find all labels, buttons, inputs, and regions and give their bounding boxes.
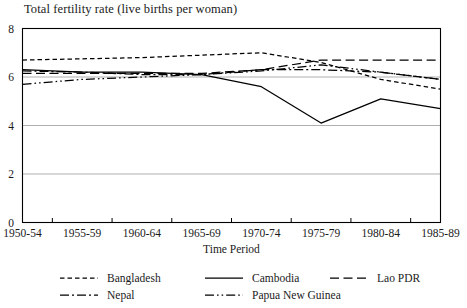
legend-label-lao-pdr: Lao PDR bbox=[377, 272, 420, 284]
legend-label-nepal: Nepal bbox=[107, 289, 134, 302]
x-tick-label-7: 1985-89 bbox=[421, 227, 460, 239]
series-line-papua-new-guinea bbox=[23, 65, 441, 84]
x-tick-label-1: 1955-59 bbox=[63, 227, 102, 239]
legend-label-cambodia: Cambodia bbox=[252, 272, 299, 284]
x-tick-label-0: 1950-54 bbox=[3, 227, 42, 239]
x-tick-label-5: 1975-79 bbox=[302, 227, 341, 239]
x-axis-title: Time Period bbox=[203, 243, 260, 255]
legend-label-papua-new-guinea: Papua New Guinea bbox=[252, 289, 341, 302]
chart-figure: Total fertility rate (live births per wo… bbox=[0, 0, 467, 308]
series-line-cambodia bbox=[23, 70, 441, 123]
x-tick-label-6: 1980-84 bbox=[362, 227, 401, 239]
y-tick-label-4: 4 bbox=[8, 120, 14, 132]
x-tick-label-2: 1960-64 bbox=[123, 227, 162, 239]
chart-canvas: 024681950-541955-591960-641965-691970-74… bbox=[0, 0, 467, 308]
legend-label-bangladesh: Bangladesh bbox=[107, 272, 161, 285]
x-tick-label-4: 1970-74 bbox=[242, 227, 281, 239]
y-tick-label-6: 6 bbox=[8, 71, 14, 83]
y-tick-label-8: 8 bbox=[8, 23, 14, 35]
y-tick-label-2: 2 bbox=[8, 168, 14, 180]
x-tick-label-3: 1965-69 bbox=[182, 227, 221, 239]
